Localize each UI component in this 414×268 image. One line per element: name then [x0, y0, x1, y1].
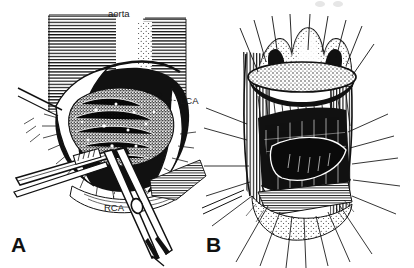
illustration-canvas: [0, 0, 414, 268]
lca-label: LCA: [180, 96, 198, 106]
aorta-label: aorta: [108, 9, 130, 19]
panel-b-letter: B: [206, 234, 221, 255]
lca-ostium: [158, 93, 162, 97]
figure-container: A B aorta LCA RCA: [0, 0, 414, 268]
panel-a-letter: A: [11, 234, 26, 255]
rca-label: RCA: [104, 203, 124, 213]
aortic-root-chamber: [258, 108, 350, 194]
